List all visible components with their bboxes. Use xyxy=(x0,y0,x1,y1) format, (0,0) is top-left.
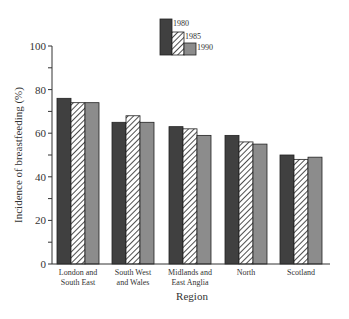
bar-group xyxy=(225,135,267,264)
legend-swatch-1985 xyxy=(172,32,184,55)
bar-group xyxy=(57,98,99,264)
bar-1980 xyxy=(112,122,126,264)
bar-1985 xyxy=(183,129,197,264)
bar-group xyxy=(280,155,322,264)
x-tick-label: Midlands and xyxy=(168,268,212,277)
bar-1990 xyxy=(308,157,322,264)
bar-group xyxy=(169,127,211,264)
x-tick-label: and Wales xyxy=(117,278,150,287)
legend-label: 1985 xyxy=(185,32,201,41)
y-tick-label: 100 xyxy=(30,40,47,52)
bar-1980 xyxy=(225,135,239,264)
bar-1985 xyxy=(239,142,253,264)
legend-label: 1980 xyxy=(173,19,189,28)
x-tick-label: East Anglia xyxy=(171,278,209,287)
bar-1985 xyxy=(294,159,308,264)
y-tick-label: 40 xyxy=(35,171,47,183)
bar-1980 xyxy=(280,155,294,264)
bar-1990 xyxy=(85,103,99,264)
bar-1980 xyxy=(57,98,71,264)
x-tick-label: London and xyxy=(59,268,97,277)
bar-1990 xyxy=(140,122,154,264)
y-axis: 020406080100 xyxy=(30,40,53,270)
bar-1980 xyxy=(169,127,183,264)
y-tick-label: 60 xyxy=(35,127,47,139)
bar-1990 xyxy=(197,135,211,264)
legend-swatch-1990 xyxy=(184,43,196,55)
y-axis-title: Incidence of breastfeeding (%) xyxy=(12,87,25,223)
bars xyxy=(57,98,322,264)
bar-1990 xyxy=(253,144,267,264)
bar-1985 xyxy=(126,116,140,264)
bar-group xyxy=(112,116,154,264)
x-axis-title: Region xyxy=(176,290,208,302)
y-tick-label: 0 xyxy=(41,258,47,270)
legend-swatch-1980 xyxy=(160,19,172,55)
legend-label: 1990 xyxy=(197,43,213,52)
x-tick-label: South East xyxy=(61,278,96,287)
legend: 198019851990 xyxy=(160,19,213,55)
x-axis: London andSouth EastSouth Westand WalesM… xyxy=(52,264,330,287)
bar-1985 xyxy=(71,103,85,264)
y-tick-label: 80 xyxy=(35,84,47,96)
y-tick-label: 20 xyxy=(35,214,47,226)
x-tick-label: North xyxy=(237,268,256,277)
bar-chart: 198019851990 020406080100 London andSout… xyxy=(0,0,349,319)
x-tick-label: Scotland xyxy=(287,268,315,277)
x-tick-label: South West xyxy=(115,268,152,277)
